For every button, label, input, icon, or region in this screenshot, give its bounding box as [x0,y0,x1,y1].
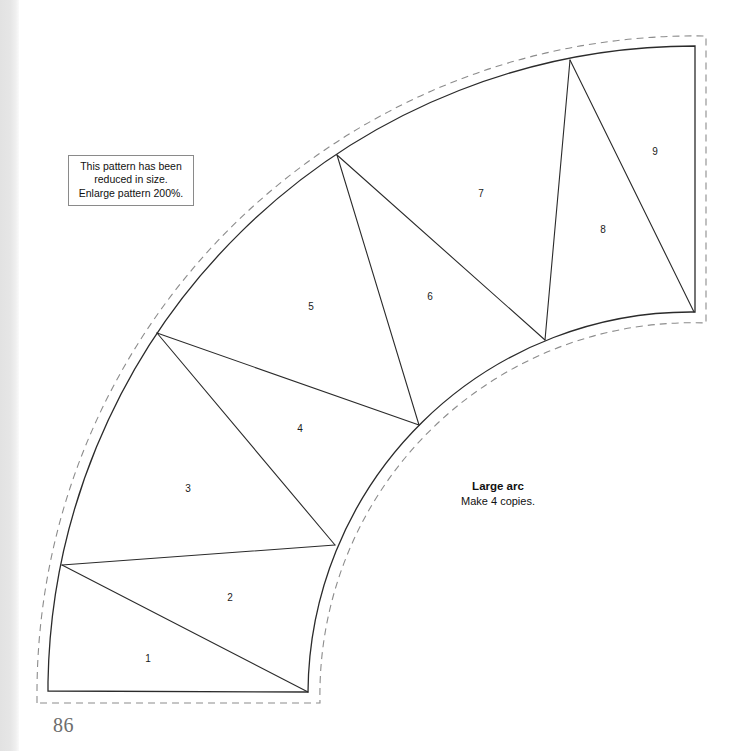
reduction-notice-line-3: Enlarge pattern 200%. [72,187,190,200]
piece-number-4: 4 [297,423,303,434]
arc-caption: Large arc Make 4 copies. [428,479,568,508]
piece-number-1: 1 [145,653,151,664]
piece-number-9: 9 [652,146,658,157]
pattern-page: 1 2 3 4 5 6 7 8 9 This pattern has been … [0,0,744,751]
arc-caption-title: Large arc [428,479,568,494]
pattern-outline [48,46,695,692]
arc-caption-subtitle: Make 4 copies. [428,494,568,508]
piece-number-8: 8 [600,224,606,235]
piece-number-7: 7 [478,188,484,199]
piece-number-3: 3 [185,483,191,494]
piece-number-5: 5 [308,301,314,312]
pattern-drawing [0,0,744,751]
reduction-notice-box: This pattern has been reduced in size. E… [68,155,194,206]
piece-number-2: 2 [227,592,233,603]
piece-number-6: 6 [427,291,433,302]
page-number: 86 [53,714,74,737]
reduction-notice-line-2: reduced in size. [72,173,190,186]
reduction-notice-line-1: This pattern has been [72,160,190,173]
